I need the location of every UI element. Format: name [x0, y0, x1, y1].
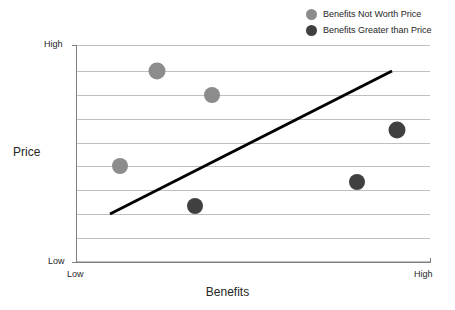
- y-axis-label-high: High: [44, 39, 63, 49]
- legend-marker-icon: [306, 25, 317, 36]
- legend-item-benefits-greater-than-price: Benefits Greater than Price: [306, 24, 432, 37]
- x-axis-line: [77, 262, 431, 263]
- data-point-benefits-greater-than-price: [389, 122, 406, 139]
- plot-area: [77, 45, 430, 262]
- data-point-benefits-not-worth-price: [204, 87, 220, 103]
- x-axis-tick-high: [430, 258, 431, 263]
- x-axis-label-low: Low: [67, 269, 84, 279]
- gridline: [77, 143, 430, 144]
- y-axis-label-low: Low: [48, 256, 65, 266]
- gridline: [77, 71, 430, 72]
- data-point-benefits-not-worth-price: [112, 158, 128, 174]
- gridline: [77, 95, 430, 96]
- gridline: [77, 119, 430, 120]
- gridline: [77, 190, 430, 191]
- value-map-scatter-chart: Benefits Not Worth Price Benefits Greate…: [0, 0, 455, 310]
- legend-item-label: Benefits Not Worth Price: [323, 9, 421, 20]
- x-axis-title: Benefits: [0, 285, 455, 299]
- y-axis-tick-high: [72, 45, 77, 46]
- gridline: [77, 214, 430, 215]
- legend-item-label: Benefits Greater than Price: [323, 25, 432, 36]
- gridline: [77, 238, 430, 239]
- data-point-benefits-greater-than-price: [187, 198, 203, 214]
- chart-legend: Benefits Not Worth Price Benefits Greate…: [306, 8, 432, 37]
- legend-item-benefits-not-worth-price: Benefits Not Worth Price: [306, 8, 432, 21]
- gridline: [77, 166, 430, 167]
- y-axis-line: [76, 45, 77, 263]
- legend-marker-icon: [306, 9, 317, 20]
- data-point-benefits-not-worth-price: [149, 63, 166, 80]
- gridline: [77, 45, 430, 46]
- data-point-benefits-greater-than-price: [349, 174, 365, 190]
- y-axis-tick-low: [72, 262, 77, 263]
- y-axis-title: Price: [13, 145, 40, 159]
- x-axis-label-high: High: [414, 269, 433, 279]
